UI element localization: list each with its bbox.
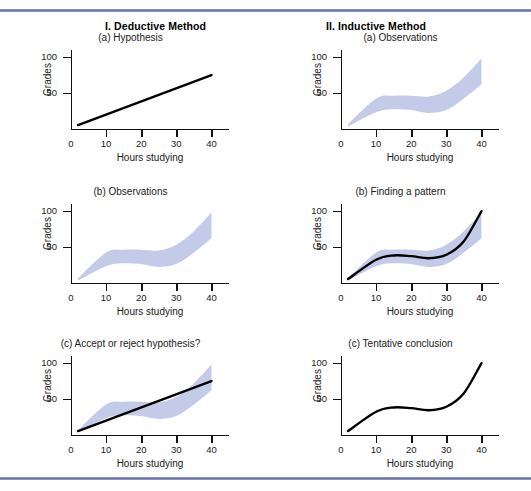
chart-title-deductive-a: (a) Hypothesis [8,32,253,43]
column-heading-deductive: I. Deductive Method [105,20,206,32]
chart-panel-deductive-c: (c) Accept or reject hypothesis?50100010… [8,338,253,483]
x-axis-title: Hours studying [341,152,499,163]
series-curve [348,363,481,431]
data-layer-deductive-c [51,356,231,453]
chart-panel-deductive-a: (a) Hypothesis50100010203040Hours studyi… [8,32,253,177]
plot-area-deductive-a: 50100010203040Hours studyingGrades [51,50,231,147]
plot-area-inductive-c: 50100010203040Hours studyingGrades [321,356,501,453]
x-axis-title: Hours studying [71,306,229,317]
chart-panel-inductive-a: (a) Observations50100010203040Hours stud… [278,32,523,177]
data-layer-inductive-c [321,356,501,453]
x-axis-title: Hours studying [71,152,229,163]
data-layer-deductive-b [51,204,231,301]
plot-area-inductive-b: 50100010203040Hours studyingGrades [321,204,501,301]
series-band [348,59,481,127]
top-divider-rule [0,9,531,12]
chart-title-inductive-a: (a) Observations [278,32,523,43]
chart-panel-inductive-b: (b) Finding a pattern50100010203040Hours… [278,186,523,331]
plot-area-deductive-b: 50100010203040Hours studyingGrades [51,204,231,301]
data-layer-inductive-a [321,50,501,147]
chart-title-inductive-b: (b) Finding a pattern [278,186,523,197]
data-layer-deductive-a [51,50,231,147]
column-heading-inductive: II. Inductive Method [326,20,426,32]
plot-area-inductive-a: 50100010203040Hours studyingGrades [321,50,501,147]
chart-title-deductive-c: (c) Accept or reject hypothesis? [8,338,253,349]
x-axis-title: Hours studying [341,458,499,469]
chart-panel-inductive-c: (c) Tentative conclusion50100010203040Ho… [278,338,523,483]
chart-title-inductive-c: (c) Tentative conclusion [278,338,523,349]
series-line [78,75,211,125]
data-layer-inductive-b [321,204,501,301]
plot-area-deductive-c: 50100010203040Hours studyingGrades [51,356,231,453]
series-band [348,213,481,281]
series-band [78,213,211,281]
x-axis-title: Hours studying [71,458,229,469]
chart-panel-deductive-b: (b) Observations50100010203040Hours stud… [8,186,253,331]
x-axis-title: Hours studying [341,306,499,317]
chart-title-deductive-b: (b) Observations [8,186,253,197]
